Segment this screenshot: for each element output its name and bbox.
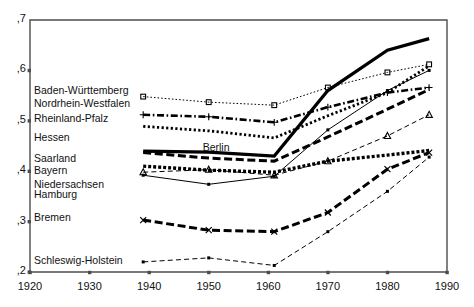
series-line <box>143 66 429 138</box>
y-tick <box>28 170 31 173</box>
y-axis-tick-label: ,5 <box>6 113 26 125</box>
annotation-berlin: Berlin <box>203 141 230 153</box>
y-tick <box>28 69 31 72</box>
y-axis-tick-label: ,7 <box>6 12 26 24</box>
series-inline-label: Rheinland-Pfalz <box>34 112 108 124</box>
point-marker <box>271 119 278 126</box>
x-axis-tick-label: 1950 <box>192 280 226 292</box>
x-tick <box>28 271 31 274</box>
point-marker <box>207 183 210 186</box>
point-marker <box>326 230 329 233</box>
x-axis-tick-label: 1980 <box>370 280 404 292</box>
x-axis-tick-label: 1960 <box>251 280 285 292</box>
plot-frame <box>30 20 447 272</box>
y-axis-tick-label: ,3 <box>6 214 26 226</box>
x-axis-tick-label: 1920 <box>13 280 47 292</box>
x-axis-tick-label: 1930 <box>73 280 107 292</box>
point-marker <box>384 133 390 139</box>
point-marker <box>142 174 145 177</box>
x-tick <box>267 271 270 274</box>
y-tick <box>28 220 31 223</box>
y-tick <box>28 119 31 122</box>
point-marker <box>386 89 389 92</box>
series-inline-label: Nordrhein-Westfalen <box>34 97 130 109</box>
x-tick <box>88 271 91 274</box>
series-inline-label: Bayern <box>34 164 67 176</box>
x-axis-tick-label: 1990 <box>430 280 464 292</box>
point-marker <box>205 113 212 120</box>
x-axis-tick-label: 1940 <box>132 280 166 292</box>
point-marker <box>428 156 431 159</box>
point-marker <box>142 260 145 263</box>
chart-figure: ,2,3,4,5,6,7 192019301940195019601970198… <box>0 0 474 307</box>
point-marker <box>386 190 389 193</box>
point-marker <box>141 94 146 99</box>
x-tick <box>207 271 210 274</box>
series-inline-label: Baden-Württemberg <box>34 84 129 96</box>
y-axis-tick-label: ,6 <box>6 62 26 74</box>
point-marker <box>273 175 276 178</box>
point-marker <box>207 256 210 259</box>
series-inline-label: Hamburg <box>34 188 77 200</box>
point-marker <box>273 264 276 267</box>
x-axis-tick-label: 1970 <box>311 280 345 292</box>
series-inline-label: Saarland <box>34 152 76 164</box>
x-tick <box>148 271 151 274</box>
point-marker <box>426 111 432 117</box>
point-marker <box>428 69 431 72</box>
x-tick <box>326 271 329 274</box>
y-axis-tick-label: ,2 <box>6 264 26 276</box>
point-marker <box>140 111 147 118</box>
point-marker <box>326 128 329 131</box>
series-inline-label: Hessen <box>34 131 70 143</box>
x-tick <box>445 271 448 274</box>
x-tick <box>386 271 389 274</box>
series-line <box>143 157 429 265</box>
point-marker <box>324 104 331 111</box>
y-axis-tick-label: ,4 <box>6 163 26 175</box>
series-inline-label: Bremen <box>34 211 71 223</box>
series-inline-label: Schleswig-Holstein <box>34 254 123 266</box>
